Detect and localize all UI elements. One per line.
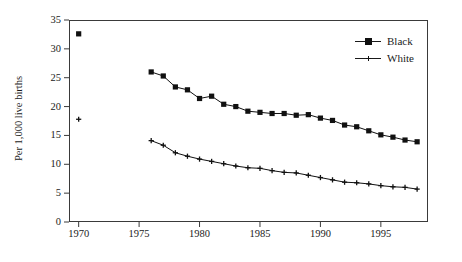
legend-label-white: White xyxy=(387,53,414,64)
x-tick-label: 1975 xyxy=(119,228,159,239)
y-tick-label: 10 xyxy=(35,159,61,170)
y-tick-label: 5 xyxy=(35,188,61,199)
chart-legend: Black White xyxy=(355,33,414,67)
y-tick-label: 30 xyxy=(35,44,61,55)
y-axis-title: Per 1,000 live births xyxy=(13,54,24,184)
chart-figure: Per 1,000 live births 05101520253035 197… xyxy=(0,0,462,262)
y-tick-label: 0 xyxy=(35,217,61,228)
series-white xyxy=(76,117,420,192)
x-tick-label: 1970 xyxy=(59,228,99,239)
x-tick-label: 1980 xyxy=(180,228,220,239)
plus-marker-icon xyxy=(355,53,381,65)
y-tick-label: 25 xyxy=(35,73,61,84)
x-tick-label: 1990 xyxy=(300,228,340,239)
legend-label-black: Black xyxy=(387,36,413,47)
legend-item-black: Black xyxy=(355,33,414,50)
y-tick-label: 15 xyxy=(35,130,61,141)
x-tick-label: 1985 xyxy=(240,228,280,239)
y-tick-label: 20 xyxy=(35,102,61,113)
y-tick-label: 35 xyxy=(35,15,61,26)
legend-item-white: White xyxy=(355,50,414,67)
square-marker-icon xyxy=(355,36,381,48)
x-tick-label: 1995 xyxy=(361,228,401,239)
